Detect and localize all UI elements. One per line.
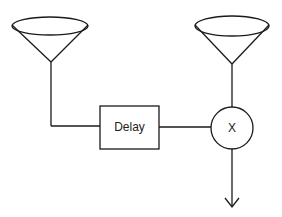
left-antenna-icon xyxy=(12,17,88,126)
block-diagram: Delay X xyxy=(0,0,282,217)
multiplier-label: X xyxy=(228,121,236,135)
right-antenna-icon xyxy=(195,16,269,107)
delay-label: Delay xyxy=(114,120,145,134)
multiplier-node: X xyxy=(211,107,253,149)
delay-block: Delay xyxy=(100,106,159,149)
output-arrow-icon xyxy=(225,149,239,207)
